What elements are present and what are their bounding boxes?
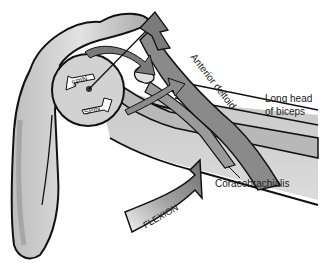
flexion-arrow: FLEXION	[125, 160, 202, 232]
long-head-biceps-label-1: Long head	[265, 93, 312, 104]
coracobrachialis-label: Coracobrachialis	[215, 178, 289, 189]
long-head-biceps-label-2: of biceps	[265, 106, 305, 117]
shoulder-flexion-diagram: SPIN SPIN FLEXION Anterior deltoid Long …	[0, 0, 321, 270]
flexion-arrow-shape	[125, 160, 202, 232]
